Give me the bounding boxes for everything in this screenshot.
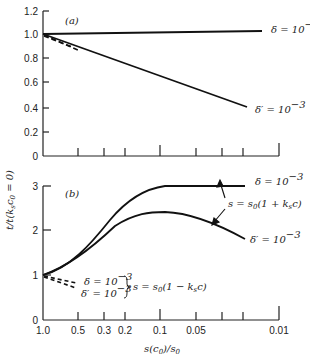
annotation-delta-a: δ = 10−3 (271, 19, 310, 35)
tick-label: 2 (32, 225, 38, 236)
svg-text:δ = 10−3: δ = 10−3 (271, 19, 310, 35)
panel-a-y-ticks (43, 11, 49, 132)
svg-text:s = s0(1 − ksc): s = s0(1 − ksc) (133, 281, 207, 294)
x-tick-label: 0.3 (97, 325, 111, 336)
panel-b: 3 2 1 0 1.0 0.5 0.3 0.2 0.1 0.05 0.01 (b… (32, 171, 303, 336)
svg-text:s = s0(1 + ksc): s = s0(1 + ksc) (228, 198, 302, 211)
x-tick-label: 0.05 (186, 325, 206, 336)
curve-delta-plus (43, 186, 245, 275)
panel-a: 1.2 1.0 0.8 0.6 0.4 0.2 0 (a) δ = 10−3 δ… (24, 6, 310, 162)
tick-label: 1 (32, 270, 38, 281)
svg-text:δ′ = 10−3: δ′ = 10−3 (255, 99, 306, 115)
x-axis-label: s(c0)/s0 (144, 343, 181, 356)
dashed-curve-delta-prime (44, 36, 72, 47)
x-tick-label: 0.01 (269, 325, 289, 336)
x-tick-label: 1.0 (36, 325, 50, 336)
panel-b-y-ticks (43, 186, 51, 275)
curve-delta (43, 31, 262, 34)
x-tick-label: 0.5 (71, 325, 85, 336)
tick-label: 1.2 (24, 6, 38, 17)
panel-a-label: (a) (65, 15, 79, 26)
x-tick-label: 0.2 (118, 325, 132, 336)
tick-label: 0.4 (24, 103, 38, 114)
y-axis-label: t/t(ksc0 = 0) (4, 170, 17, 230)
panel-a-x-ticks (78, 145, 243, 156)
tick-label: 0.8 (24, 53, 38, 64)
annotation-delta-prime-b: δ′ = 10−3 (250, 229, 301, 245)
tick-label: 0.2 (24, 127, 38, 138)
svg-text:δ = 10−3: δ = 10−3 (255, 171, 303, 187)
tick-label: 1.0 (24, 29, 38, 40)
annotation-delta-b: δ = 10−3 (255, 171, 303, 187)
x-tick-label: 0.1 (153, 325, 167, 336)
tick-label: 0 (32, 151, 38, 162)
figure: 1.2 1.0 0.8 0.6 0.4 0.2 0 (a) δ = 10−3 δ… (0, 0, 310, 361)
annotation-plus-formula: s = s0(1 + ksc) (228, 198, 302, 211)
panel-b-label: (b) (65, 188, 79, 199)
curve-delta-prime (43, 34, 247, 107)
dashed-delta-prime-minus (44, 277, 76, 288)
panel-b-x-ticks (78, 309, 243, 320)
annotation-minus-legend: δ = 10−3 δ′ = 10−3 s = s0(1 − ksc) (81, 271, 207, 299)
annotation-delta-prime-a: δ′ = 10−3 (255, 99, 306, 115)
tick-label: 3 (32, 181, 38, 192)
tick-label: 0.6 (24, 77, 38, 88)
svg-text:δ′ = 10−3: δ′ = 10−3 (250, 229, 301, 245)
